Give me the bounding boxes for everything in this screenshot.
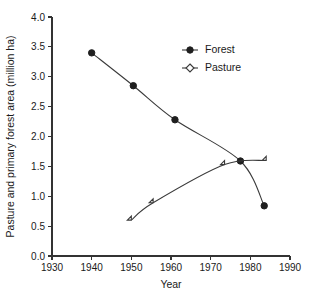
data-point-forest — [172, 117, 178, 123]
x-axis-ticks: 1930194019501960197019801990 — [41, 256, 302, 273]
data-point-forest — [88, 50, 94, 56]
chart-figure: 0.00.51.01.52.02.53.03.54.0 193019401950… — [0, 0, 310, 298]
y-tick-label: 3.0 — [31, 71, 45, 82]
x-tick-label: 1960 — [160, 262, 183, 273]
x-tick-label: 1950 — [120, 262, 143, 273]
x-tick-label: 1980 — [239, 262, 262, 273]
x-tick-label: 1940 — [81, 262, 104, 273]
legend-label: Pasture — [205, 61, 241, 73]
y-tick-label: 0.5 — [31, 221, 45, 232]
legend-marker-pasture — [186, 64, 194, 72]
legend-entry-pasture: Pasture — [182, 61, 241, 73]
line-chart-plot: 0.00.51.01.52.02.53.03.54.0 193019401950… — [0, 0, 310, 298]
y-tick-label: 0.0 — [31, 251, 45, 262]
legend-label: Forest — [205, 43, 235, 55]
data-point-pasture — [149, 199, 153, 203]
legend-marker-forest — [187, 47, 193, 53]
y-axis-ticks: 0.00.51.01.52.02.53.03.54.0 — [31, 12, 52, 262]
x-tick-label: 1990 — [279, 262, 302, 273]
y-tick-label: 1.5 — [31, 161, 45, 172]
legend-entry-forest: Forest — [182, 43, 235, 55]
series-forest — [88, 50, 267, 209]
chart-legend: ForestPasture — [182, 43, 241, 73]
data-point-pasture — [127, 216, 131, 220]
y-tick-label: 3.5 — [31, 41, 45, 52]
data-point-pasture — [262, 156, 266, 160]
x-axis-title: Year — [160, 278, 182, 290]
x-tick-label: 1970 — [200, 262, 223, 273]
y-tick-label: 2.5 — [31, 101, 45, 112]
data-series-layer — [88, 50, 267, 221]
series-line-pasture — [131, 160, 266, 220]
data-point-forest — [130, 83, 136, 89]
y-axis-title: Pasture and primary forest area (million… — [4, 36, 16, 238]
y-tick-label: 4.0 — [31, 12, 45, 23]
series-line-forest — [92, 53, 265, 206]
data-point-forest — [261, 203, 267, 209]
y-tick-label: 2.0 — [31, 131, 45, 142]
x-tick-label: 1930 — [41, 262, 64, 273]
y-tick-label: 1.0 — [31, 191, 45, 202]
data-point-pasture — [221, 161, 225, 165]
